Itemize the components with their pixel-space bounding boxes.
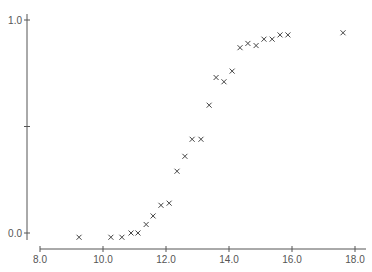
x-marker-icon <box>182 154 187 159</box>
x-tick-label: 12.0 <box>156 254 176 265</box>
x-marker-icon <box>175 169 180 174</box>
x-marker-icon <box>245 41 250 46</box>
x-marker-icon <box>158 203 163 208</box>
x-marker-icon <box>108 235 113 240</box>
x-tick-label: 8.0 <box>33 254 47 265</box>
x-marker-icon <box>278 32 283 37</box>
x-marker-icon <box>198 137 203 142</box>
x-marker-icon <box>221 79 226 84</box>
y-tick-label: 0.0 <box>8 228 22 239</box>
x-tick-label: 18.0 <box>345 254 365 265</box>
scatter-chart: 0.01.0 8.010.012.014.016.018.0 <box>0 0 372 272</box>
x-marker-icon <box>341 30 346 35</box>
x-marker-icon <box>230 69 235 74</box>
x-marker-icon <box>261 37 266 42</box>
x-marker-icon <box>77 235 82 240</box>
x-axis: 8.010.012.014.016.018.0 <box>33 246 366 265</box>
x-marker-icon <box>129 231 134 236</box>
y-tick-label: 1.0 <box>8 15 22 26</box>
x-tick-label: 16.0 <box>282 254 302 265</box>
x-marker-icon <box>119 235 124 240</box>
x-tick-label: 10.0 <box>93 254 113 265</box>
data-points <box>77 30 346 239</box>
x-tick-label: 14.0 <box>219 254 239 265</box>
x-marker-icon <box>190 137 195 142</box>
y-axis: 0.01.0 <box>8 14 30 240</box>
x-marker-icon <box>207 103 212 108</box>
x-marker-icon <box>151 213 156 218</box>
x-marker-icon <box>285 32 290 37</box>
x-marker-icon <box>270 37 275 42</box>
x-marker-icon <box>254 43 259 48</box>
x-marker-icon <box>135 231 140 236</box>
x-marker-icon <box>214 75 219 80</box>
x-marker-icon <box>167 201 172 206</box>
x-marker-icon <box>238 45 243 50</box>
x-marker-icon <box>144 222 149 227</box>
